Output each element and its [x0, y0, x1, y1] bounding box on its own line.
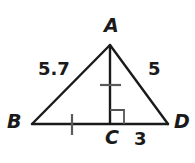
- triangle-diagram-canvas: [0, 0, 195, 163]
- vertex-label-b: B: [7, 112, 21, 131]
- side-length-label-ab: 5.7: [38, 60, 70, 78]
- vertex-label-d: D: [174, 112, 190, 131]
- geometry-figure: A B C D 5.7 5 3: [0, 0, 195, 163]
- side-length-label-cd: 3: [134, 130, 147, 148]
- vertex-label-c: C: [105, 128, 119, 147]
- vertex-label-a: A: [104, 16, 119, 35]
- side-length-label-ad: 5: [148, 60, 161, 78]
- right-angle-marker-at-C: [110, 110, 124, 124]
- segment-AB: [32, 45, 110, 124]
